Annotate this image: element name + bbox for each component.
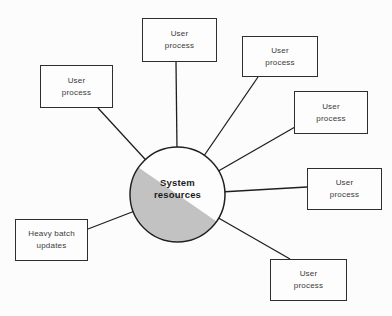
node-user-process-right: User process	[307, 168, 382, 210]
diagram-canvas: System resources User process User proce…	[0, 0, 392, 316]
node-user-process-top: User process	[142, 18, 217, 62]
node-label: User process	[330, 177, 359, 200]
node-label: User process	[265, 45, 294, 68]
node-label: User process	[316, 101, 345, 124]
node-label: User process	[294, 268, 323, 291]
system-resources-label: System resources	[137, 177, 218, 202]
node-user-process-bottom-right: User process	[270, 259, 347, 301]
node-label: Heavy batch updates	[28, 228, 75, 251]
node-user-process-top-left: User process	[40, 65, 113, 108]
node-label: User process	[165, 28, 194, 51]
node-user-process-right-upper: User process	[294, 91, 368, 134]
node-label: User process	[62, 75, 91, 98]
node-heavy-batch-updates: Heavy batch updates	[15, 219, 88, 261]
node-user-process-upper-right: User process	[242, 36, 318, 77]
